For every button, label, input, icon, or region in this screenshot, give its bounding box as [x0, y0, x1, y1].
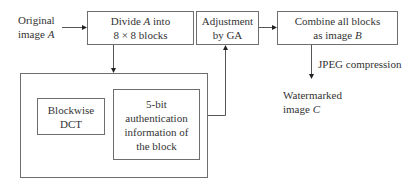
divide-blocks-box: Divide A into 8 × 8 blocks: [87, 11, 194, 45]
adjustment-by-ga-box: Adjustment by GA: [196, 11, 259, 45]
arrowhead-icon: [223, 45, 228, 50]
output-label: Watermarked image C: [283, 88, 342, 116]
arrowhead-icon: [309, 74, 314, 79]
jpeg-compression-label: JPEG compression: [318, 57, 401, 71]
blockwise-dct-box: Blockwise DCT: [37, 98, 105, 135]
authentication-info-box: 5-bit authentication information of the …: [113, 89, 200, 160]
arrow-group-to-adjust: [208, 48, 226, 116]
combine-blocks-box: Combine all blocks as image B: [277, 11, 398, 45]
input-label: Original image A: [18, 13, 55, 41]
